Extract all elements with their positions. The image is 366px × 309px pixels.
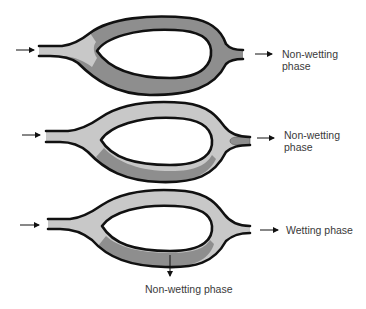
bottom-label: Non-wetting phase	[145, 283, 233, 295]
wetting-inlet-fill	[39, 33, 97, 67]
panel-3: Wetting phase Non-wetting phase	[20, 190, 353, 295]
panel-1: Non-wetting phase	[16, 17, 338, 95]
outlet-label-line2: phase	[284, 141, 313, 153]
outlet-label-line1: Non-wetting	[284, 129, 340, 141]
outlet-label-line1: Non-wetting	[282, 48, 338, 60]
pore-doublet-diagram: Non-wetting phase Non-wetting phase Wett…	[0, 0, 366, 309]
outlet-label: Wetting phase	[286, 224, 353, 236]
panel-2: Non-wetting phase	[22, 102, 340, 182]
outlet-label-line2: phase	[282, 60, 311, 72]
